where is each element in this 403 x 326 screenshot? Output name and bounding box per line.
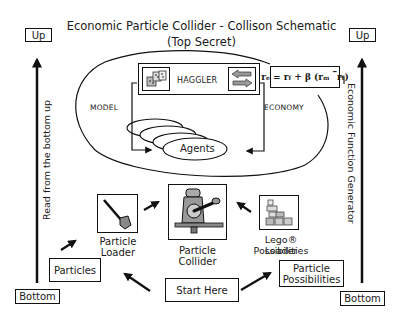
start-here-box: Start Here	[165, 278, 239, 302]
left-bottom-label: Bottom	[15, 289, 60, 304]
formula-beta: β	[305, 72, 311, 83]
economy-label: ECONOMY	[264, 102, 304, 113]
left-up-label: Up	[25, 28, 52, 42]
particle-loader-box	[97, 194, 138, 233]
particle-possibilities-label-1: Particle	[293, 263, 330, 274]
right-bottom-label: Bottom	[340, 291, 385, 306]
capm-formula: re = rf + β (rm – rf)	[270, 66, 340, 88]
particle-loader-label-2: Loader	[90, 247, 146, 258]
left-side-text: Read from the bottom up	[41, 100, 52, 220]
arrow-particles-to-loader	[61, 241, 75, 250]
arrow-lego-to-collider	[238, 203, 251, 212]
dice-icon	[142, 67, 170, 91]
particle-possibilities-label-2: Possibilities	[283, 274, 341, 285]
exchange-arrows-icon	[228, 67, 256, 91]
arrow-start-to-particles	[125, 274, 150, 291]
meat-grinder-icon	[171, 187, 225, 237]
lego-blocks-icon	[262, 198, 296, 228]
diagram-title: Economic Particle Collider - Collison Sc…	[0, 19, 403, 33]
particle-collider-label-1: Particle	[168, 245, 227, 256]
formula-rf2-sub: f	[342, 72, 345, 83]
haggler-label: HAGGLER	[177, 75, 217, 86]
arrow-start-to-possibilities	[241, 273, 270, 290]
agents-label: Agents	[180, 143, 212, 154]
shovel-icon	[100, 197, 136, 231]
formula-rm-sub: m	[323, 72, 329, 83]
model-label: MODEL	[90, 102, 118, 113]
formula-rf-sub: f	[289, 72, 292, 83]
lego-loader-label-2: Loader	[238, 245, 324, 256]
particle-collider-box	[168, 184, 227, 240]
arrow-loader-to-collider	[144, 202, 158, 210]
right-side-text: Economic Function Generator	[346, 83, 357, 224]
right-up-label: Up	[349, 28, 376, 42]
diagram-subtitle: (Top Secret)	[0, 35, 403, 49]
particles-box: Particles	[49, 258, 101, 282]
lego-loader-box	[259, 195, 299, 230]
particle-possibilities-box: Particle Possibilities	[279, 260, 344, 287]
haggler-box: HAGGLER	[138, 63, 260, 95]
particle-collider-label-2: Collider	[168, 256, 227, 267]
formula-lhs-sub: e	[266, 72, 270, 83]
particle-loader-label-1: Particle	[90, 236, 146, 247]
